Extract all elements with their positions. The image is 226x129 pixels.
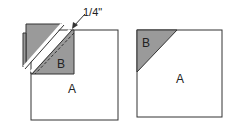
dimension-label: 1/4" xyxy=(83,6,102,18)
left-figure: 1/4" B A xyxy=(23,6,118,120)
right-figure: B A xyxy=(137,30,222,117)
left-label-b: B xyxy=(57,57,65,71)
right-label-b: B xyxy=(142,36,150,50)
left-label-a: A xyxy=(68,82,76,96)
right-label-a: A xyxy=(176,72,184,86)
left-fold-edge xyxy=(23,33,26,67)
diagram-canvas: 1/4" B A B A xyxy=(0,0,226,129)
